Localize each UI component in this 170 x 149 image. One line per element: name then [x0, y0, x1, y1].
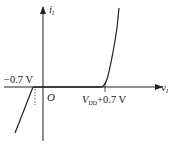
positive-branch	[102, 8, 119, 87]
origin-label: O	[47, 92, 55, 103]
neg-threshold-label: −0.7 V	[4, 75, 33, 86]
negative-branch	[15, 87, 33, 133]
pos-threshold-label: VDD+0.7 V	[82, 95, 126, 106]
y-axis-label: iI	[49, 4, 54, 16]
x-axis-label: vI	[161, 82, 168, 94]
